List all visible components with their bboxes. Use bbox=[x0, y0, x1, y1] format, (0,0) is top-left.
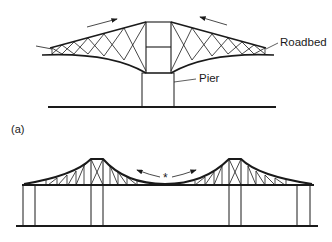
top-cantilever bbox=[36, 17, 278, 107]
right-arm-top-chord bbox=[171, 22, 266, 48]
pier bbox=[142, 73, 174, 107]
arrow-left-inward-icon bbox=[87, 19, 117, 27]
roadbed-leader bbox=[266, 43, 278, 49]
arrow-right-inward-icon bbox=[200, 17, 227, 25]
panel-label: (a) bbox=[11, 124, 24, 135]
left-arm-bottom-chord bbox=[42, 55, 146, 73]
right-arm-bottom-chord bbox=[171, 55, 274, 73]
left-arm-top-chord bbox=[50, 22, 146, 48]
center-star-mark: * bbox=[163, 172, 168, 184]
pier-label: Pier bbox=[199, 73, 219, 85]
arrow-right-outward-icon bbox=[172, 170, 196, 177]
bottom-cantilever-bridge bbox=[16, 159, 318, 226]
roadbed-label: Roadbed bbox=[280, 37, 327, 49]
arrow-left-outward-icon bbox=[137, 170, 160, 177]
pier-leader bbox=[174, 79, 196, 82]
